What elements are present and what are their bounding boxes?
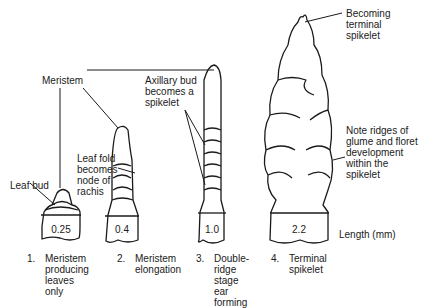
label-becoming-terminal: Becoming terminal spikelet — [346, 8, 390, 41]
stage-name: Meristem elongation — [135, 253, 181, 275]
stage-number: 1. — [27, 253, 35, 264]
label-meristem: Meristem — [42, 75, 83, 86]
length-value-stage-1: 0.25 — [41, 224, 81, 235]
label-axillary-bud: Axillary bud becomes a spikelet — [145, 75, 197, 108]
stage-3-meristem-drawing — [198, 65, 226, 243]
length-value-stage-4: 2.2 — [279, 224, 319, 235]
leader-axillary-b — [185, 110, 205, 185]
stage-4-meristem-drawing — [264, 15, 332, 243]
stage-name: Double- ridge stage ear forming — [214, 253, 249, 308]
stage-number: 4. — [271, 253, 279, 264]
stage-number: 3. — [196, 253, 204, 264]
leader-becoming-terminal — [305, 13, 342, 22]
label-leaf-bud: Leaf bud — [10, 180, 49, 191]
stage-name: Meristem producing leaves only — [45, 253, 89, 297]
leader-axillary-a — [185, 110, 205, 145]
label-length-unit: Length (mm) — [339, 229, 396, 240]
label-leaf-fold: Leaf fold becomes node of rachis — [77, 153, 118, 197]
leader-note-ridges — [333, 157, 345, 160]
stage-number: 2. — [117, 253, 125, 264]
length-value-stage-2: 0.4 — [102, 224, 142, 235]
leader-meristem-2 — [83, 88, 118, 128]
label-note-ridges: Note ridges of glume and floret developm… — [346, 125, 418, 180]
length-value-stage-3: 1.0 — [192, 224, 232, 235]
stage-name: Terminal spikelet — [289, 253, 327, 275]
